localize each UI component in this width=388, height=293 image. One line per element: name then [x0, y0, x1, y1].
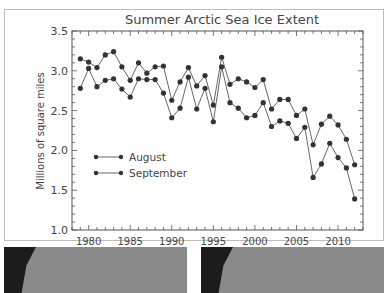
data-point — [161, 63, 166, 68]
series-august — [78, 49, 358, 167]
legend-label: September — [129, 167, 188, 179]
data-point — [136, 76, 141, 81]
y-tick-label: 1.0 — [51, 224, 69, 237]
data-point — [236, 76, 241, 81]
data-point — [186, 75, 191, 80]
data-point — [236, 106, 241, 111]
data-point — [94, 65, 99, 70]
data-point — [103, 78, 108, 83]
y-tick-label: 3.0 — [51, 65, 69, 78]
legend-item-september: September — [94, 167, 188, 179]
chart-title: Summer Arctic Sea Ice Extent — [125, 12, 319, 27]
y-tick-label: 1.5 — [51, 184, 69, 197]
data-point — [227, 82, 232, 87]
sea-ice-line-chart: Summer Arctic Sea Ice Extent Year Millio… — [0, 0, 388, 262]
photo-thumbnail-left — [4, 247, 187, 293]
y-tick-label: 2.5 — [51, 105, 69, 118]
data-point — [244, 115, 249, 120]
data-point — [78, 56, 83, 61]
y-tick-label: 2.0 — [51, 144, 69, 157]
data-point — [261, 77, 266, 82]
y-axis-label: Millions of square miles — [35, 72, 46, 189]
x-tick-label: 1980 — [76, 236, 101, 247]
data-point — [311, 142, 316, 147]
photo-thumbnail-right — [201, 247, 384, 293]
data-point — [286, 97, 291, 102]
data-point — [144, 71, 149, 76]
data-point — [219, 64, 224, 69]
axes: 19801985199019952000200520101.01.52.02.5… — [51, 25, 364, 247]
x-tick-label: 2010 — [325, 236, 350, 247]
data-series — [78, 49, 358, 201]
data-point — [344, 165, 349, 170]
data-point — [78, 86, 83, 91]
data-point — [119, 87, 124, 92]
data-point — [177, 79, 182, 84]
data-point — [169, 98, 174, 103]
series-september — [78, 64, 358, 201]
data-point — [211, 119, 216, 124]
data-point — [111, 76, 116, 81]
data-point — [111, 49, 116, 54]
data-point — [302, 125, 307, 130]
x-tick-label: 1985 — [117, 236, 142, 247]
x-tick-label: 1995 — [201, 236, 226, 247]
photo-dark-region — [4, 247, 36, 293]
photo-dark-region — [201, 247, 233, 293]
data-point — [277, 118, 282, 123]
data-point — [194, 83, 199, 88]
x-tick-label: 2000 — [242, 236, 267, 247]
data-point — [161, 90, 166, 95]
data-point — [227, 100, 232, 105]
data-point — [277, 97, 282, 102]
data-point — [335, 155, 340, 160]
data-point — [352, 162, 357, 167]
data-point — [294, 113, 299, 118]
data-point — [186, 65, 191, 70]
data-point — [169, 115, 174, 120]
data-point — [194, 106, 199, 111]
data-point — [327, 114, 332, 119]
data-point — [244, 79, 249, 84]
data-point — [319, 161, 324, 166]
y-tick-label: 3.5 — [51, 25, 69, 38]
data-point — [294, 136, 299, 141]
data-point — [261, 100, 266, 105]
data-point — [177, 106, 182, 111]
data-point — [86, 66, 91, 71]
data-point — [119, 64, 124, 69]
data-point — [103, 52, 108, 57]
data-point — [153, 64, 158, 69]
data-point — [202, 86, 207, 91]
data-point — [269, 124, 274, 129]
data-point — [286, 121, 291, 126]
data-point — [128, 94, 133, 99]
x-tick-label: 2005 — [284, 236, 309, 247]
data-point — [94, 84, 99, 89]
legend: AugustSeptember — [94, 151, 188, 179]
data-point — [128, 78, 133, 83]
data-point — [144, 77, 149, 82]
data-point — [202, 73, 207, 78]
data-point — [352, 196, 357, 201]
data-point — [344, 137, 349, 142]
data-point — [302, 106, 307, 111]
data-point — [311, 175, 316, 180]
legend-label: August — [129, 151, 166, 163]
data-point — [153, 77, 158, 82]
data-point — [136, 60, 141, 65]
legend-item-august: August — [94, 151, 166, 163]
data-point — [335, 122, 340, 127]
data-point — [86, 59, 91, 64]
data-point — [327, 141, 332, 146]
data-point — [252, 113, 257, 118]
x-tick-label: 1990 — [159, 236, 184, 247]
data-point — [319, 122, 324, 127]
data-point — [252, 85, 257, 90]
data-point — [269, 106, 274, 111]
data-point — [219, 55, 224, 60]
